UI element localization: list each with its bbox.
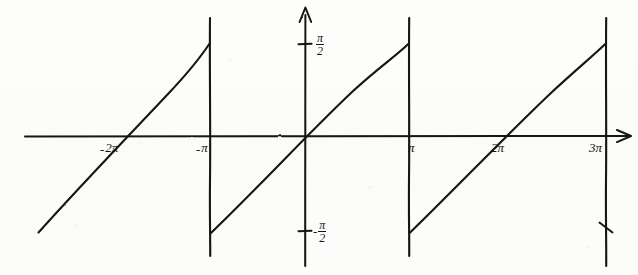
- fraction-numerator: π: [318, 219, 326, 232]
- fraction-pi-over-2: π 2: [316, 32, 324, 57]
- x-axis-line: [25, 136, 628, 137]
- graph-page: -2π -π π 2π 3π π 2 - π 2: [0, 0, 638, 275]
- pi-symbol: 2π: [491, 140, 504, 155]
- minus-sign: -: [313, 225, 317, 238]
- branch-3: [410, 44, 606, 234]
- branch-2: [210, 44, 408, 234]
- x-tick-label-pi: π: [408, 141, 415, 154]
- y-tick-label-pi-over-2: π 2: [316, 32, 324, 57]
- branch-1: [39, 44, 210, 233]
- fraction-denominator: 2: [318, 232, 326, 244]
- y-tick-label-neg-pi-over-2: - π 2: [313, 219, 326, 244]
- x-tick-label-3pi: 3π: [589, 141, 602, 154]
- minus-sign: -: [196, 143, 200, 156]
- pi-symbol: 2π: [105, 140, 118, 155]
- pi-symbol: π: [201, 140, 208, 155]
- x-tick-label-neg-pi: -π: [196, 141, 208, 156]
- function-branches: [39, 44, 606, 234]
- x-tick-label-2pi: 2π: [491, 141, 504, 154]
- fraction-denominator: 2: [316, 45, 324, 57]
- minus-sign: -: [100, 143, 104, 156]
- fraction-pi-over-2: π 2: [318, 219, 326, 244]
- pi-symbol: 3π: [589, 140, 602, 155]
- x-tick-label-neg-2pi: -2π: [100, 141, 118, 156]
- pi-symbol: π: [408, 140, 415, 155]
- fraction-numerator: π: [316, 32, 324, 45]
